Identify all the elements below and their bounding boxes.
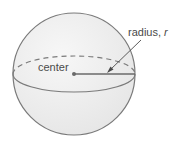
radius-variable: r [164,26,169,38]
center-label: center [38,61,69,73]
radius-label: radius, r [128,26,169,38]
sphere-diagram: center radius, r [0,0,183,141]
radius-label-text: radius, [128,26,164,38]
center-point [72,72,76,76]
